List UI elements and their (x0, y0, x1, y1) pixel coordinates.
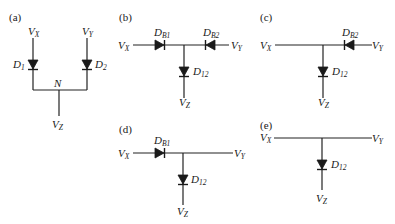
diode-d1-label: D1 (12, 58, 25, 72)
panel-c: (c) VX VY DB2 D12 VZ (260, 11, 384, 110)
panel-e: (e) VX VY D12 VZ (260, 119, 384, 206)
node-vz-label: VZ (52, 118, 64, 132)
panel-b: (b) VX VY DB1 DB2 D12 VZ (118, 11, 243, 110)
node-vy-label: VY (231, 39, 243, 53)
panel-a: (a) VX VY D1 D2 N VZ (9, 11, 107, 132)
panel-b-label: (b) (119, 11, 132, 24)
diode-d12-label: D12 (190, 173, 207, 187)
diode-d2-label: D2 (94, 58, 107, 72)
node-n-label: N (53, 77, 62, 89)
diode-d12-label: D12 (192, 65, 209, 79)
diode-circuit-figure: (a) VX VY D1 D2 N VZ (b) VX VY D (0, 0, 395, 224)
node-vy-label: VY (82, 25, 94, 39)
node-vy-label: VY (372, 39, 384, 53)
diode-db1-symbol-icon (155, 148, 165, 158)
node-vz-label: VZ (177, 205, 189, 219)
node-vx-label: VX (28, 25, 40, 39)
diode-db1-symbol-icon (155, 40, 165, 50)
node-vx-label: VX (118, 39, 130, 53)
node-vx-label: VX (260, 131, 272, 145)
panel-d: (d) VX VY DB1 D12 VZ (118, 123, 246, 219)
diode-d12-label: D12 (331, 65, 348, 79)
diode-d12-symbol-icon (317, 160, 327, 170)
node-vy-label: VY (372, 132, 384, 146)
diode-d12-label: D12 (330, 158, 347, 172)
diode-db2-symbol-icon (345, 40, 355, 50)
diode-d1-symbol-icon (28, 60, 38, 70)
node-vz-label: VZ (316, 192, 328, 206)
diode-d12-symbol-icon (318, 67, 328, 77)
panel-c-label: (c) (260, 11, 273, 24)
panel-a-label: (a) (9, 11, 22, 24)
diode-d2-symbol-icon (82, 60, 92, 70)
node-vy-label: VY (234, 147, 246, 161)
diode-db2-symbol-icon (206, 40, 216, 50)
diode-db1-label: DB1 (153, 134, 170, 148)
node-vx-label: VX (118, 147, 130, 161)
diode-d12-symbol-icon (178, 175, 188, 185)
diode-db1-label: DB1 (153, 26, 170, 40)
diode-d12-symbol-icon (179, 67, 189, 77)
node-vz-label: VZ (318, 96, 330, 110)
diode-db2-label: DB2 (341, 26, 359, 40)
node-vx-label: VX (260, 39, 272, 53)
diode-db2-label: DB2 (202, 26, 220, 40)
panel-d-label: (d) (119, 123, 132, 136)
node-vz-label: VZ (179, 96, 191, 110)
